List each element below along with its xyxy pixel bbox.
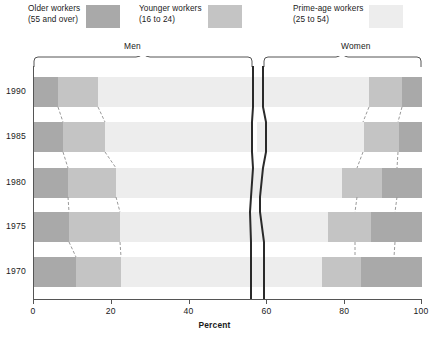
legend-label-older-workers: Older workers (55 and over) — [28, 4, 80, 25]
chart-legend: Older workers (55 and over) Younger work… — [0, 0, 429, 34]
legend-label-prime-line2: (25 to 54) — [293, 15, 363, 26]
x-axis-label-20: 20 — [106, 306, 116, 316]
legend-swatch-younger-workers — [208, 5, 242, 28]
bar-segment-women-older-1975 — [371, 212, 422, 242]
x-axis-label-60: 60 — [261, 306, 271, 316]
bar-segment-men-prime-1985 — [105, 122, 252, 152]
bar-segment-men-older-1985 — [33, 122, 63, 152]
bar-segment-women-younger-1975 — [328, 212, 372, 242]
x-axis-title: Percent — [0, 320, 429, 330]
bar-segment-men-younger-1990 — [58, 77, 98, 107]
bar-segment-women-prime-1970 — [251, 257, 322, 287]
bar-segment-men-younger-1980 — [68, 168, 116, 198]
bar-segment-women-prime-1985 — [257, 122, 364, 152]
bar-segment-women-younger-1970 — [322, 257, 361, 287]
y-axis-label-1985: 1985 — [6, 131, 26, 141]
y-axis-label-1990: 1990 — [6, 86, 26, 96]
bar-segment-men-older-1980 — [33, 168, 68, 198]
legend-item-older-workers: Older workers (55 and over) — [28, 4, 120, 28]
y-axis-labels: 19901985198019751970 — [0, 66, 30, 299]
bar-row-1975 — [33, 212, 422, 242]
x-axis-tick-40 — [189, 299, 190, 304]
bar-segment-women-prime-1975 — [250, 212, 328, 242]
legend-label-older-line2: (55 and over) — [28, 15, 80, 26]
bar-row-1990 — [33, 77, 422, 107]
bar-segment-men-younger-1970 — [76, 257, 121, 287]
bar-row-1970 — [33, 257, 422, 287]
bar-segment-women-older-1990 — [402, 77, 422, 107]
bar-segment-men-prime-1980 — [116, 168, 252, 198]
legend-item-prime-age-workers: Prime-age workers (25 to 54) — [293, 4, 403, 28]
legend-label-older-line1: Older workers — [28, 4, 80, 15]
x-axis-tick-80 — [344, 299, 345, 304]
legend-swatch-older-workers — [86, 5, 120, 28]
x-axis-label-40: 40 — [184, 306, 194, 316]
legend-label-prime-age-workers: Prime-age workers (25 to 54) — [293, 4, 363, 25]
legend-item-younger-workers: Younger workers (16 to 24) — [139, 4, 242, 28]
bar-segment-men-older-1970 — [33, 257, 76, 287]
bar-segment-men-older-1975 — [33, 212, 69, 242]
x-axis-tick-0 — [33, 299, 34, 304]
bar-segment-men-prime-1970 — [121, 257, 251, 287]
legend-label-prime-line1: Prime-age workers — [293, 4, 363, 15]
x-axis-label-80: 80 — [339, 306, 349, 316]
bar-segment-women-younger-1985 — [364, 122, 399, 152]
y-axis-label-1970: 1970 — [6, 266, 26, 276]
bar-segment-women-older-1970 — [361, 257, 422, 287]
chart-plot-area — [33, 66, 422, 299]
x-axis-tick-100 — [421, 299, 422, 304]
legend-label-younger-workers: Younger workers (16 to 24) — [139, 4, 202, 25]
legend-label-younger-line1: Younger workers — [139, 4, 202, 15]
group-label-men: Men — [124, 41, 141, 51]
bar-segment-men-younger-1975 — [69, 212, 120, 242]
bar-segment-women-younger-1980 — [342, 168, 382, 198]
bar-segment-men-prime-1990 — [98, 77, 253, 107]
x-axis-tick-20 — [111, 299, 112, 304]
legend-swatch-prime-age-workers — [369, 5, 403, 28]
group-label-women: Women — [341, 41, 371, 51]
bar-segment-women-prime-1990 — [253, 77, 369, 107]
bar-segment-women-younger-1990 — [369, 77, 402, 107]
y-axis-label-1980: 1980 — [6, 177, 26, 187]
bar-segment-women-older-1985 — [399, 122, 422, 152]
legend-label-younger-line2: (16 to 24) — [139, 15, 202, 26]
bar-row-1980 — [33, 168, 422, 198]
bar-segment-men-younger-1985 — [63, 122, 105, 152]
y-axis-label-1975: 1975 — [6, 221, 26, 231]
chart-container: Older workers (55 and over) Younger work… — [0, 0, 429, 340]
bar-row-1985 — [33, 122, 422, 152]
y-axis-line — [33, 66, 34, 299]
bar-segment-women-prime-1980 — [252, 168, 342, 198]
x-axis-tick-60 — [266, 299, 267, 304]
bar-segment-men-older-1990 — [33, 77, 58, 107]
bar-segment-men-prime-1975 — [120, 212, 250, 242]
bar-segment-women-older-1980 — [382, 168, 422, 198]
x-axis-label-100: 100 — [414, 306, 429, 316]
x-axis-label-0: 0 — [31, 306, 36, 316]
x-axis-line — [33, 299, 422, 300]
